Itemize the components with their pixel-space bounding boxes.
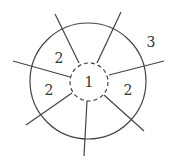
- radial-line: [104, 95, 144, 131]
- radial-line: [97, 12, 121, 63]
- region-diagram: 22123: [0, 0, 170, 165]
- region-label: 3: [147, 34, 156, 50]
- region-label: 2: [45, 82, 54, 98]
- radial-line: [84, 101, 87, 156]
- radial-line: [109, 61, 164, 75]
- region-label: 2: [55, 50, 64, 66]
- region-label: 1: [85, 74, 94, 90]
- region-label: 2: [124, 82, 133, 98]
